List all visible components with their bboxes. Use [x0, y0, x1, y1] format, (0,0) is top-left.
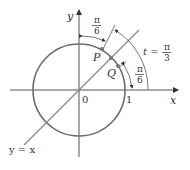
- point-intersection: [109, 56, 113, 60]
- line-label: y = x: [8, 144, 35, 155]
- origin-label: 0: [82, 94, 88, 105]
- arc-pi6-top: [82, 36, 105, 41]
- line-y-equals-x: [24, 30, 139, 145]
- point-p: [100, 47, 104, 51]
- angle-ray-pi-over-3: [103, 25, 115, 49]
- frac-top-den: 6: [94, 26, 100, 36]
- frac-right-den: 6: [137, 75, 143, 85]
- p-label: P: [92, 51, 101, 64]
- frac-top-num: π: [94, 15, 100, 25]
- y-axis-label: y: [66, 10, 74, 23]
- q-label: Q: [107, 67, 116, 80]
- x-axis-label: x: [170, 94, 177, 107]
- frac-t-den: 3: [164, 53, 170, 63]
- unit-circle-diagram: y x 0 1 P Q y = x π 6 π 6 t = π 3: [0, 0, 190, 170]
- point-q: [116, 64, 120, 68]
- arc-t: [115, 30, 148, 90]
- one-label: 1: [126, 94, 132, 105]
- frac-right-num: π: [137, 64, 143, 74]
- t-label: t =: [143, 46, 159, 57]
- diagram-svg: y x 0 1 P Q y = x π 6 π 6 t = π 3: [0, 0, 190, 170]
- frac-t-num: π: [164, 42, 170, 52]
